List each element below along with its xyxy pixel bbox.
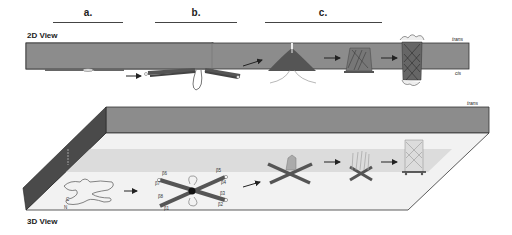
svg-text:β4: β4 [221,180,227,185]
membrane-2d-main [26,43,213,69]
svg-text:β1: β1 [164,206,170,211]
svg-text:β8: β8 [158,194,164,199]
stage-c-full-barrel [400,35,424,86]
diagram-canvas: β6 β5 β7 β4 β8 β3 β1 β2 C N [0,0,512,235]
membrane-3d-top-slab [106,107,489,133]
membrane-2d-rhs [212,43,469,69]
stage-c-3d-full-barrel [402,140,426,175]
svg-text:β3: β3 [220,191,226,196]
svg-text:N: N [64,205,67,210]
membrane-3d-band [56,149,452,172]
stage-b-strands [145,70,241,90]
svg-text:β2: β2 [218,202,224,207]
svg-text:β5: β5 [216,168,222,173]
svg-text:β7: β7 [155,181,161,186]
svg-text:β6: β6 [162,171,168,176]
